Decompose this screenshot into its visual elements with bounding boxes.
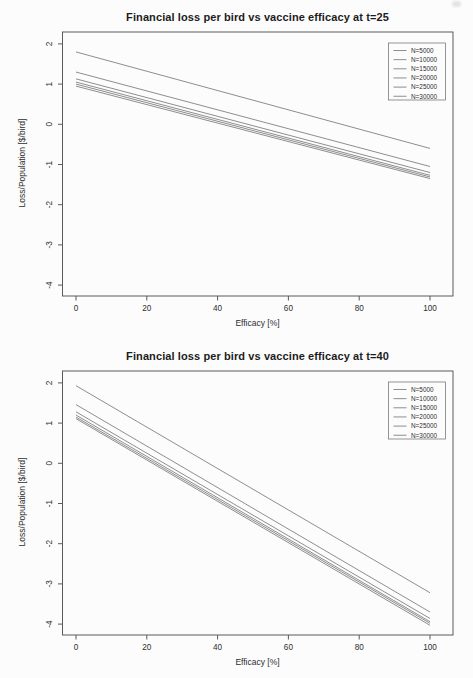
series-line-N=20000 [76,415,430,622]
series-line-N=10000 [76,72,430,166]
x-tick-label: 80 [355,304,365,313]
scanned-plot-page: 020406080100210-1-2-3-4N=5000N=10000N=15… [0,0,473,678]
plot-area-t25: 020406080100210-1-2-3-4N=5000N=10000N=15… [0,0,473,339]
y-tick-label: 1 [45,420,54,425]
series-line-N=25000 [76,84,430,177]
x-tick-label: 0 [74,643,79,652]
y-tick-label: 2 [45,380,54,385]
y-tick-label: 2 [45,41,54,46]
series-line-N=20000 [76,82,430,175]
legend-label: N=15000 [411,65,438,72]
chart-loss-t25: 020406080100210-1-2-3-4N=5000N=10000N=15… [0,0,473,339]
series-line-N=5000 [76,386,430,593]
x-tick-label: 20 [142,643,152,652]
x-tick-label: 100 [423,643,437,652]
y-tick-label: -2 [45,540,54,548]
legend-label: N=20000 [411,413,438,420]
series-line-N=25000 [76,417,430,623]
x-tick-label: 60 [284,304,294,313]
legend-label: N=25000 [411,83,438,90]
y-tick-label: 1 [45,81,54,86]
series-line-N=10000 [76,405,430,612]
y-tick-label: -1 [45,160,54,168]
chart-loss-t40: 020406080100210-1-2-3-4N=5000N=10000N=15… [0,339,473,678]
y-tick-label: -1 [45,499,54,507]
legend-label: N=30000 [411,432,438,439]
legend-label: N=20000 [411,74,438,81]
x-tick-label: 20 [142,304,152,313]
y-tick-label: -2 [45,201,54,209]
x-axis-label: Efficacy [%] [62,318,453,328]
legend-label: N=10000 [411,395,438,402]
x-tick-label: 80 [355,643,365,652]
series-line-N=15000 [76,79,430,173]
chart-title: Financial loss per bird vs vaccine effic… [62,350,453,362]
y-tick-label: -3 [45,241,54,249]
legend-label: N=5000 [411,386,434,393]
chart-title: Financial loss per bird vs vaccine effic… [62,11,453,23]
legend-label: N=15000 [411,404,438,411]
y-tick-label: -3 [45,580,54,588]
x-axis-label: Efficacy [%] [62,657,453,667]
y-tick-label: -4 [45,620,54,628]
y-tick-label: -4 [45,281,54,289]
x-tick-label: 40 [213,304,223,313]
plot-area-t40: 020406080100210-1-2-3-4N=5000N=10000N=15… [0,339,473,678]
series-line-N=30000 [76,419,430,626]
legend-label: N=10000 [411,56,438,63]
y-axis-label: Loss/Population [$/bird] [17,119,27,208]
x-tick-label: 0 [74,304,79,313]
x-tick-label: 60 [284,643,294,652]
series-line-N=15000 [76,412,430,619]
x-tick-label: 40 [213,643,223,652]
y-axis-label: Loss/Population [$/bird] [17,458,27,547]
y-tick-label: 0 [45,122,54,127]
legend-label: N=25000 [411,422,438,429]
legend-label: N=5000 [411,47,434,54]
x-tick-label: 100 [423,304,437,313]
y-tick-label: 0 [45,461,54,466]
legend-label: N=30000 [411,93,438,100]
